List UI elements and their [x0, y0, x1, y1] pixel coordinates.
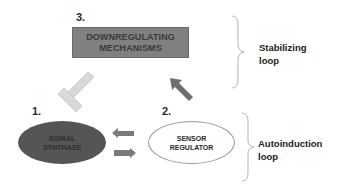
sensor-regulator-oval: SENSOR REGULATOR [148, 121, 235, 164]
oval1-label-line-2: SYNTHASE [43, 143, 81, 152]
node-number-2: 2. [162, 105, 171, 117]
inhibition-arrow-icon [50, 68, 110, 116]
oval2-label-line-2: REGULATOR [170, 143, 214, 152]
oval2-label-line-1: SENSOR [177, 134, 207, 143]
node-number-1: 1. [32, 105, 41, 117]
autoinduction-brace-icon [240, 111, 260, 183]
activation-arrow-up-icon [160, 70, 200, 110]
stabilizing-brace-icon [228, 14, 250, 90]
stabilizing-line-2: loop [259, 54, 307, 67]
stabilizing-loop-label: Stabilizing loop [259, 41, 307, 67]
double-arrow-icon [112, 128, 142, 160]
autoinduction-line-1: Autoinduction [258, 137, 322, 150]
stabilizing-line-1: Stabilizing [259, 41, 307, 54]
autoinduction-loop-label: Autoinduction loop [258, 137, 322, 163]
oval1-label-line-1: SIGNAL [49, 134, 75, 143]
box-label-line-2: MECHANISMS [99, 43, 162, 54]
autoinduction-line-2: loop [258, 150, 322, 163]
downregulating-mechanisms-box: DOWNREGULATING MECHANISMS [72, 27, 189, 58]
signal-synthase-oval: SIGNAL SYNTHASE [18, 121, 106, 164]
node-number-3: 3. [76, 11, 85, 23]
box-label-line-1: DOWNREGULATING [86, 32, 175, 43]
